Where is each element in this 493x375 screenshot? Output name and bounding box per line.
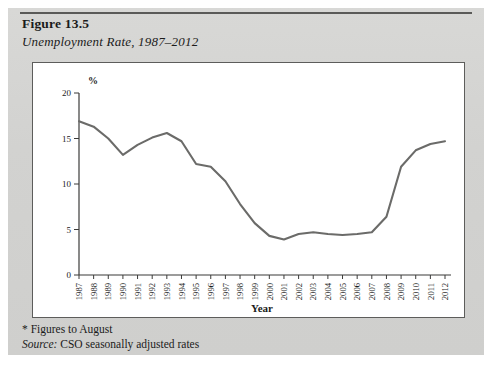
x-tick-label: 2008: [382, 283, 392, 300]
x-tick-label: 2007: [367, 282, 377, 300]
x-tick-label: 1998: [235, 283, 245, 300]
y-axis: 05101520: [62, 88, 79, 280]
x-tick-label: 2010: [411, 283, 421, 300]
x-tick-label: 2006: [352, 282, 362, 300]
x-axis-title: Year: [251, 302, 273, 314]
x-tick-label: 1999: [250, 283, 260, 300]
y-tick-label: 5: [67, 225, 72, 235]
x-tick-label: 1990: [118, 283, 128, 300]
x-tick-label: 2011: [426, 283, 436, 300]
x-tick-label: 2000: [265, 283, 275, 300]
figure-footnote: * Figures to August: [22, 323, 112, 335]
x-tick-label: 2012: [440, 283, 450, 300]
x-tick-label: 2001: [279, 283, 289, 300]
x-tick-label: 1993: [162, 283, 172, 300]
x-tick-label: 2003: [308, 283, 318, 300]
x-tick-label: 1997: [221, 282, 231, 300]
x-tick-label: 2009: [396, 283, 406, 300]
source-word: Source:: [22, 338, 57, 350]
x-tick-label: 1991: [133, 283, 143, 300]
unemployment-rate-line: [79, 121, 445, 239]
x-tick-label: 1987: [74, 282, 84, 300]
figure-title: Figure 13.5: [22, 16, 89, 32]
figure-source: Source: CSO seasonally adjusted rates: [22, 338, 199, 350]
x-tick-label: 2004: [323, 282, 333, 300]
x-axis: 1987198819891990199119921993199419951996…: [74, 275, 451, 300]
y-tick-label: 20: [62, 88, 72, 98]
x-tick-label: 1989: [103, 283, 113, 300]
chart-plot-area: 05101520 1987198819891990199119921993199…: [32, 62, 465, 318]
y-tick-label: 15: [62, 134, 72, 144]
panel-top-rule: [20, 12, 472, 14]
y-tick-label: 0: [67, 270, 72, 280]
figure-subtitle: Unemployment Rate, 1987–2012: [22, 34, 198, 50]
x-tick-label: 1994: [177, 282, 187, 300]
x-tick-label: 2002: [294, 283, 304, 300]
x-tick-label: 1996: [206, 282, 216, 300]
x-tick-label: 1995: [191, 283, 201, 300]
x-tick-label: 2005: [338, 283, 348, 300]
unemployment-line-chart: 05101520 1987198819891990199119921993199…: [33, 63, 464, 317]
x-tick-label: 1992: [147, 283, 157, 300]
y-axis-unit-label: %: [88, 75, 98, 86]
x-tick-label: 1988: [89, 283, 99, 300]
source-text: CSO seasonally adjusted rates: [57, 338, 199, 350]
figure-panel: Figure 13.5 Unemployment Rate, 1987–2012…: [8, 8, 484, 355]
y-tick-label: 10: [62, 179, 72, 189]
